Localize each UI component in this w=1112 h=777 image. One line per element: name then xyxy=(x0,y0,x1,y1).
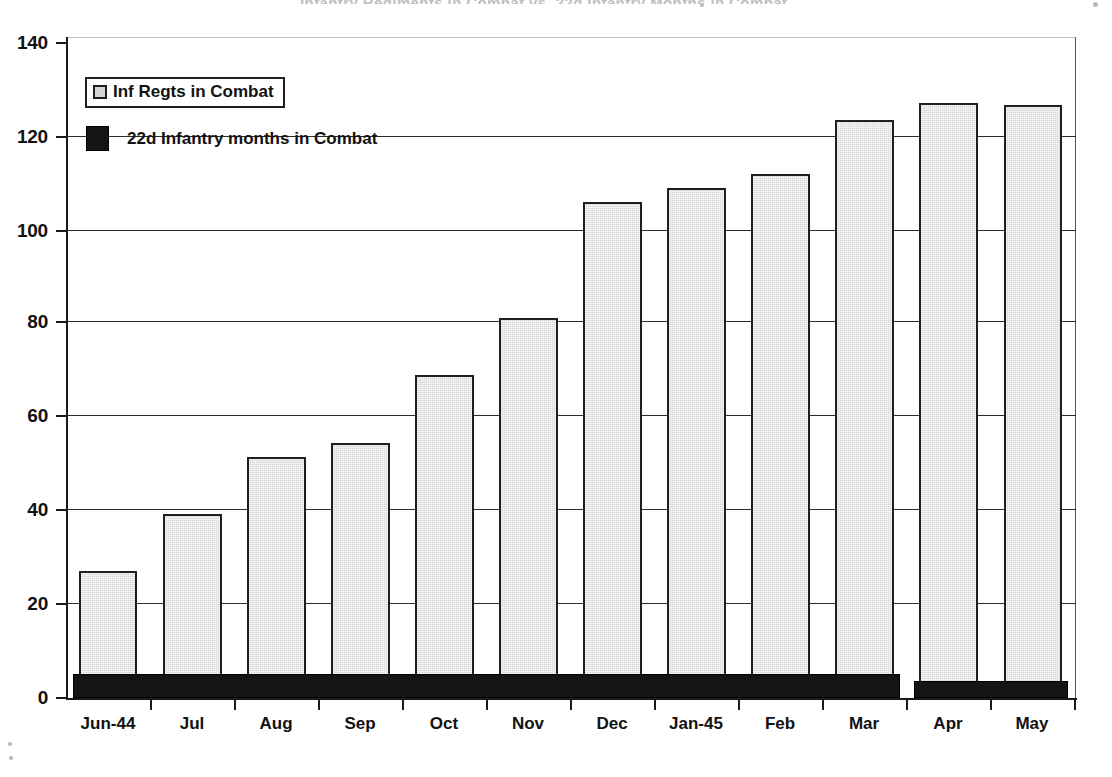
x-axis-label-nov: Nov xyxy=(486,714,570,734)
x-axis-label-may: May xyxy=(990,714,1074,734)
x-tick-2 xyxy=(318,700,320,710)
chart-figure: Infantry Regiments in Combat vs. 22d Inf… xyxy=(0,0,1112,777)
x-axis-label-apr: Apr xyxy=(906,714,990,734)
x-axis-label-oct: Oct xyxy=(402,714,486,734)
x-axis-label-feb: Feb xyxy=(738,714,822,734)
bar-inf-regts-sep xyxy=(331,443,390,698)
x-tick-5 xyxy=(570,700,572,710)
scan-speck xyxy=(8,742,12,746)
bar-inf-regts-dec xyxy=(583,202,642,698)
bar-inf-regts-aug xyxy=(247,457,306,698)
y-tick-40 xyxy=(56,509,67,511)
bar-inf-regts-may xyxy=(1004,105,1063,698)
x-axis-label-aug: Aug xyxy=(234,714,318,734)
y-axis-label-80: 80 xyxy=(0,311,48,333)
scan-speck xyxy=(9,756,13,760)
bar-22d-infantry-jun-44 xyxy=(73,674,900,698)
x-tick-3 xyxy=(402,700,404,710)
legend-item-22d-infantry[interactable]: 22d Infantry months in Combat xyxy=(86,126,377,151)
bar-inf-regts-nov xyxy=(499,318,558,698)
y-tick-80 xyxy=(56,321,67,323)
legend-swatch-dark-icon xyxy=(86,126,109,151)
bar-inf-regts-mar xyxy=(835,120,894,698)
y-axis-label-120: 120 xyxy=(0,126,48,148)
y-tick-60 xyxy=(56,415,67,417)
x-axis-label-jan-45: Jan-45 xyxy=(654,714,738,734)
y-tick-120 xyxy=(56,136,67,138)
y-axis-label-40: 40 xyxy=(0,499,48,521)
y-axis-label-60: 60 xyxy=(0,405,48,427)
y-axis-label-140: 140 xyxy=(0,32,48,54)
x-axis-label-jul: Jul xyxy=(150,714,234,734)
bar-inf-regts-jan-45 xyxy=(667,188,726,698)
legend-item-inf-regts[interactable]: Inf Regts in Combat xyxy=(85,77,285,108)
y-tick-20 xyxy=(56,603,67,605)
y-tick-100 xyxy=(56,230,67,232)
y-tick-140 xyxy=(56,42,67,44)
x-axis-label-sep: Sep xyxy=(318,714,402,734)
legend-swatch-light-icon xyxy=(93,85,107,99)
x-tick-9 xyxy=(906,700,908,710)
chart-title-remnant: Infantry Regiments in Combat vs. 22d Inf… xyxy=(300,0,900,4)
bar-inf-regts-apr xyxy=(919,103,978,698)
legend-label-22d-infantry: 22d Infantry months in Combat xyxy=(127,129,377,149)
x-axis-label-jun-44: Jun-44 xyxy=(66,714,150,734)
x-tick-6 xyxy=(654,700,656,710)
x-tick-10 xyxy=(990,700,992,710)
x-tick-4 xyxy=(486,700,488,710)
y-tick-0 xyxy=(56,697,67,699)
x-axis-label-dec: Dec xyxy=(570,714,654,734)
bar-inf-regts-jul xyxy=(163,514,222,698)
y-axis-label-20: 20 xyxy=(0,593,48,615)
y-axis-label-0: 0 xyxy=(0,687,48,709)
x-tick-7 xyxy=(738,700,740,710)
plot-top-border xyxy=(66,37,1076,38)
x-tick-1 xyxy=(234,700,236,710)
x-tick-0 xyxy=(150,700,152,710)
bar-inf-regts-oct xyxy=(415,375,474,698)
scan-speck xyxy=(700,3,704,7)
x-tick-8 xyxy=(822,700,824,710)
x-axis-label-mar: Mar xyxy=(822,714,906,734)
legend-label-inf-regts: Inf Regts in Combat xyxy=(113,82,274,102)
x-tick-11 xyxy=(1074,700,1076,710)
scan-speck xyxy=(1093,2,1098,7)
bar-22d-infantry-apr xyxy=(914,681,1068,698)
y-axis-label-100: 100 xyxy=(0,220,48,242)
bar-inf-regts-feb xyxy=(751,174,810,698)
